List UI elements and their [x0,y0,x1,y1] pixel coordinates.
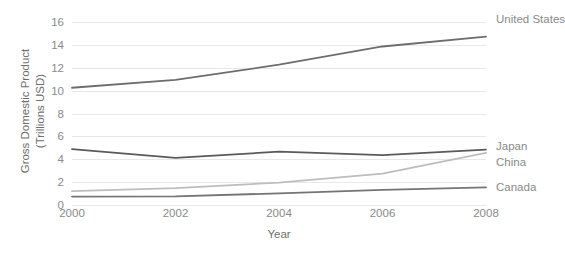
series-label-china: China [496,156,526,168]
y-axis-tick-labels: 0246810121416 [36,0,64,260]
x-tick-label: 2008 [456,207,516,219]
y-tick-label: 16 [36,16,64,28]
series-line [72,37,486,88]
series-line [72,153,486,191]
gridline [72,205,486,206]
series-lines [72,22,486,205]
series-label-japan: Japan [496,140,527,152]
x-tick-label: 2002 [146,207,206,219]
x-tick-label: 2006 [353,207,413,219]
series-label-united-states: United States [496,13,565,25]
plot-area [72,22,486,205]
y-tick-label: 10 [36,85,64,97]
series-line [72,149,486,158]
x-axis-title: Year [72,228,486,240]
x-tick-label: 2004 [249,207,309,219]
y-tick-label: 12 [36,62,64,74]
y-tick-label: 8 [36,108,64,120]
x-tick-label: 2000 [42,207,102,219]
y-tick-label: 4 [36,153,64,165]
y-tick-label: 2 [36,176,64,188]
series-label-canada: Canada [496,181,536,193]
y-tick-label: 14 [36,39,64,51]
x-axis-tick-labels: 20002002200420062008 [72,207,486,227]
y-axis-title-line1: Gross Domestic Product [19,49,31,174]
y-tick-label: 6 [36,130,64,142]
